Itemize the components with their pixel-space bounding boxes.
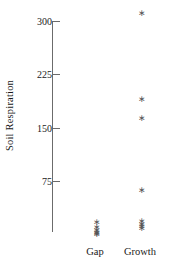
y-axis-title: Soil Respiration bbox=[0, 0, 20, 230]
plot-area bbox=[0, 0, 170, 267]
y-tick-mark-300 bbox=[52, 21, 60, 22]
data-point bbox=[138, 224, 143, 229]
y-axis-title-text: Soil Respiration bbox=[5, 79, 16, 150]
data-point bbox=[138, 97, 143, 102]
y-axis-line bbox=[52, 21, 53, 232]
data-point bbox=[93, 220, 98, 225]
data-point bbox=[138, 219, 143, 224]
data-point bbox=[93, 228, 98, 233]
data-point bbox=[138, 11, 143, 16]
data-point bbox=[93, 231, 98, 236]
y-tick-label-150: 150 bbox=[6, 123, 52, 134]
x-category-label-growth: Growth bbox=[124, 246, 156, 257]
data-point bbox=[138, 116, 143, 121]
scatter-plot-figure: Soil Respiration 300 225 150 75 Gap Grow… bbox=[0, 0, 170, 267]
y-tick-label-300: 300 bbox=[6, 16, 52, 27]
data-point bbox=[93, 232, 98, 237]
data-point bbox=[138, 226, 143, 231]
data-point bbox=[138, 222, 143, 227]
y-tick-mark-225 bbox=[52, 74, 60, 75]
y-tick-mark-75 bbox=[52, 181, 60, 182]
y-tick-mark-150 bbox=[52, 128, 60, 129]
x-category-label-gap: Gap bbox=[86, 246, 104, 257]
y-tick-label-225: 225 bbox=[6, 69, 52, 80]
data-point bbox=[93, 230, 98, 235]
data-point bbox=[93, 225, 98, 230]
y-tick-label-75: 75 bbox=[6, 176, 52, 187]
data-point bbox=[138, 188, 143, 193]
